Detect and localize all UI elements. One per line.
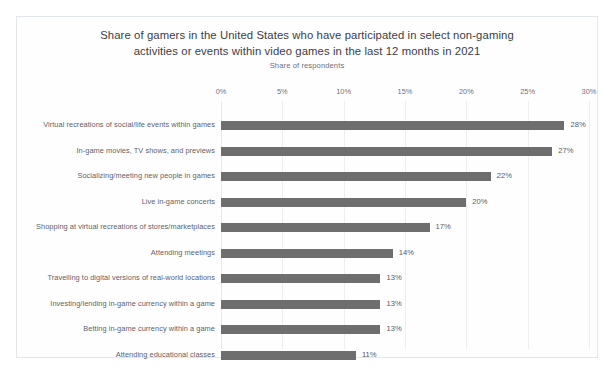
bar-row[interactable]: 11% [221, 351, 589, 360]
x-tick-label: 10% [336, 87, 351, 96]
bar-row[interactable]: 14% [221, 249, 589, 258]
bar-row[interactable]: 13% [221, 300, 589, 309]
category-label: Attending educational classes [23, 350, 215, 359]
chart-title-line-1: Share of gamers in the United States who… [17, 27, 597, 43]
bar[interactable] [221, 351, 356, 360]
category-label: Investing/lending in-game currency withi… [23, 299, 215, 308]
x-tick-label: 25% [520, 87, 535, 96]
category-label: Live in-game concerts [23, 197, 215, 206]
bar[interactable] [221, 198, 466, 207]
bar-row[interactable]: 20% [221, 198, 589, 207]
bar-value-label: 13% [386, 324, 401, 333]
x-tick-label: 30% [582, 87, 597, 96]
bar-value-label: 17% [436, 222, 451, 231]
bar-value-label: 27% [558, 146, 573, 155]
bar[interactable] [221, 325, 380, 334]
category-label: Betting in-game currency within a game [23, 324, 215, 333]
bar-value-label: 11% [362, 350, 377, 359]
plot-area: 0%5%10%15%20%25%30% 28%27%22%20%17%14%13… [221, 87, 589, 349]
bar[interactable] [221, 223, 430, 232]
bar[interactable] [221, 249, 393, 258]
x-tick-label: 15% [398, 87, 413, 96]
bar[interactable] [221, 300, 380, 309]
category-label: In-game movies, TV shows, and previews [23, 146, 215, 155]
bar-value-label: 13% [386, 299, 401, 308]
bar[interactable] [221, 172, 491, 181]
bar[interactable] [221, 147, 552, 156]
category-axis: Virtual recreations of social/life event… [23, 87, 215, 349]
bar-value-label: 22% [497, 171, 512, 180]
chart-title-line-2: activities or events within video games … [17, 43, 597, 59]
bar-row[interactable]: 17% [221, 223, 589, 232]
bar-value-label: 13% [386, 273, 401, 282]
gridline-30pct [589, 101, 590, 349]
category-label: Socializing/meeting new people in games [23, 171, 215, 180]
bar-row[interactable]: 28% [221, 121, 589, 130]
chart-card: Share of gamers in the United States who… [16, 16, 598, 358]
bar-row[interactable]: 13% [221, 274, 589, 283]
bar-value-label: 14% [399, 248, 414, 257]
x-tick-label: 20% [459, 87, 474, 96]
bar[interactable] [221, 121, 564, 130]
bar-row[interactable]: 13% [221, 325, 589, 334]
x-tick-label: 0% [216, 87, 227, 96]
category-label: Shopping at virtual recreations of store… [23, 222, 215, 231]
category-label: Virtual recreations of social/life event… [23, 120, 215, 129]
x-tick-label: 5% [277, 87, 288, 96]
category-label: Attending meetings [23, 248, 215, 257]
bar-value-label: 28% [570, 120, 585, 129]
bar-row[interactable]: 22% [221, 172, 589, 181]
bar-row[interactable]: 27% [221, 147, 589, 156]
chart-title: Share of gamers in the United States who… [17, 27, 597, 59]
bar-value-label: 20% [472, 197, 487, 206]
category-label: Travelling to digital versions of real-w… [23, 273, 215, 282]
chart-subtitle: Share of respondents [17, 61, 597, 70]
bar[interactable] [221, 274, 380, 283]
